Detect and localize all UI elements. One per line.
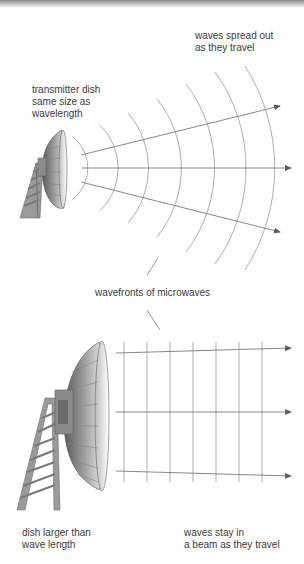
pointer-line-bottom [147, 310, 160, 330]
label-waves-beam: waves stay in a beam as they travel [184, 527, 280, 551]
label-waves-spread: waves spread out as they travel [195, 30, 273, 54]
label-wavefronts: wavefronts of microwaves [95, 287, 210, 299]
large-dish-tower [17, 398, 60, 510]
label-small-dish: transmitter dish same size as wavelength [32, 84, 100, 120]
label-large-dish: dish larger than wave length [22, 527, 91, 551]
diverging-arrows [81, 106, 291, 232]
small-dish [38, 130, 67, 208]
large-dish [55, 341, 109, 491]
parallel-arrows [116, 348, 291, 476]
pointer-line-top [147, 258, 158, 275]
